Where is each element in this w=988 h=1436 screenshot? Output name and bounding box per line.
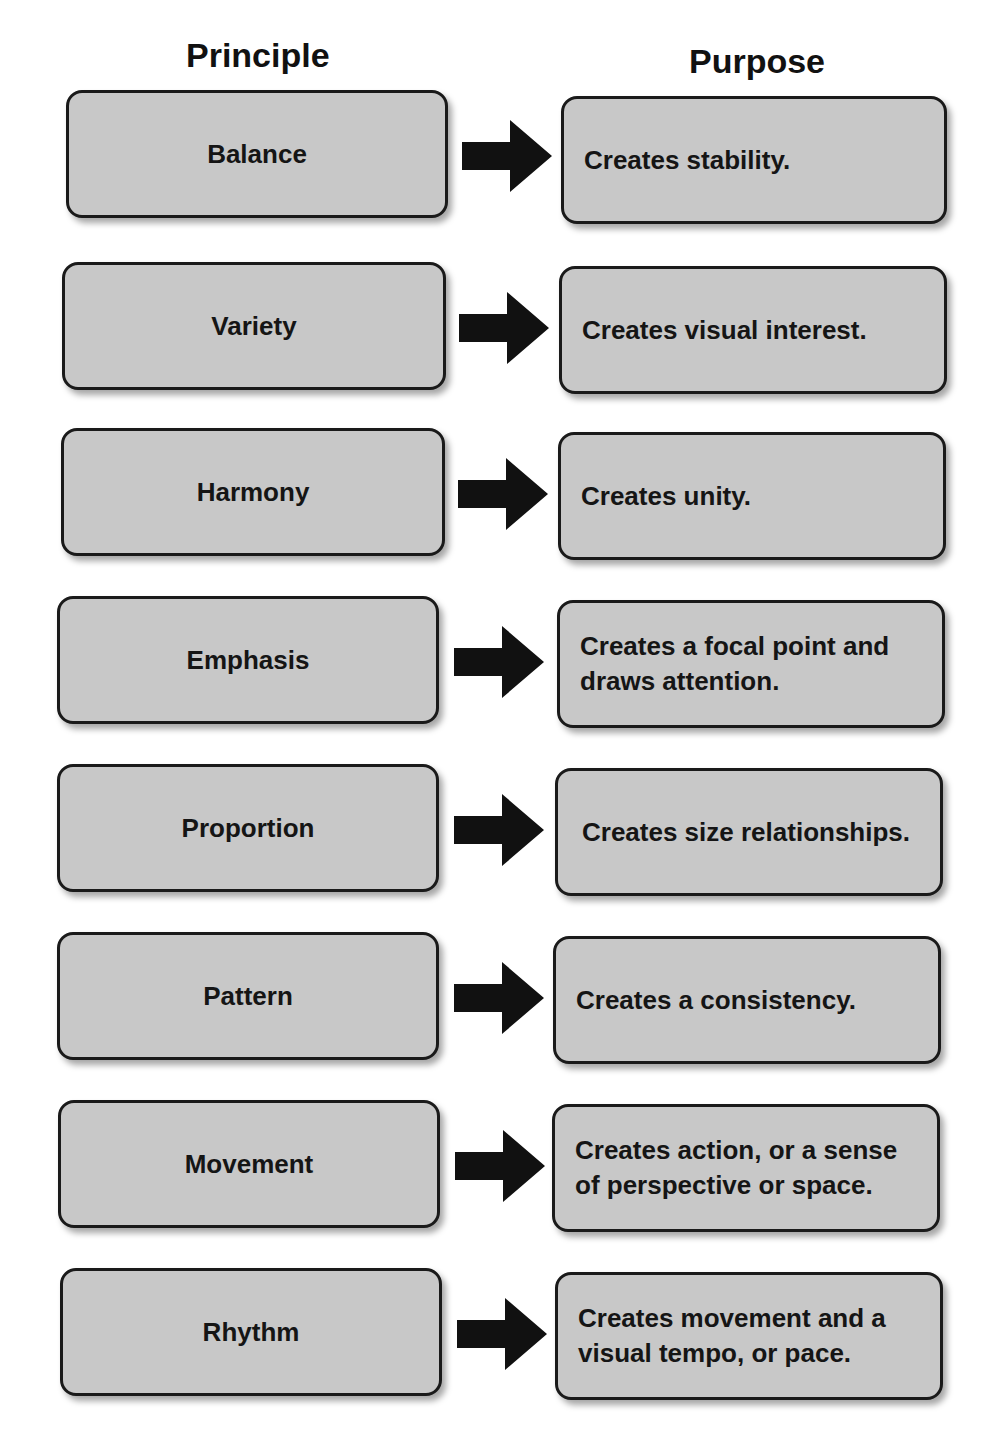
principle-label: Harmony bbox=[197, 475, 310, 510]
purpose-header: Purpose bbox=[689, 42, 825, 81]
right-arrow-icon bbox=[462, 120, 552, 192]
right-arrow-icon bbox=[455, 1130, 545, 1202]
principle-row: Movement Creates action, or a sense of p… bbox=[0, 1100, 988, 1230]
principle-row: Balance Creates stability. bbox=[0, 90, 988, 220]
purpose-text: Creates size relationships. bbox=[582, 815, 910, 850]
purpose-text: Creates unity. bbox=[581, 479, 751, 514]
principle-row: Variety Creates visual interest. bbox=[0, 262, 988, 392]
right-arrow-icon bbox=[458, 458, 548, 530]
principle-box: Balance bbox=[66, 90, 448, 218]
purpose-box: Creates a focal point and draws attentio… bbox=[557, 600, 945, 728]
purpose-box: Creates size relationships. bbox=[555, 768, 943, 896]
purpose-box: Creates visual interest. bbox=[559, 266, 947, 394]
principle-label: Movement bbox=[185, 1147, 314, 1182]
principle-row: Proportion Creates size relationships. bbox=[0, 764, 988, 894]
purpose-text: Creates a consistency. bbox=[576, 983, 856, 1018]
purpose-text: Creates stability. bbox=[584, 143, 790, 178]
right-arrow-icon bbox=[457, 1298, 547, 1370]
right-arrow-icon bbox=[459, 292, 549, 364]
principle-box: Harmony bbox=[61, 428, 445, 556]
purpose-text: Creates a focal point and draws attentio… bbox=[580, 629, 934, 699]
principle-box: Rhythm bbox=[60, 1268, 442, 1396]
principle-label: Variety bbox=[211, 309, 296, 344]
principle-box: Movement bbox=[58, 1100, 440, 1228]
purpose-text: Creates visual interest. bbox=[582, 313, 867, 348]
principle-box: Pattern bbox=[57, 932, 439, 1060]
principle-header: Principle bbox=[186, 36, 330, 75]
principle-row: Pattern Creates a consistency. bbox=[0, 932, 988, 1062]
principle-box: Proportion bbox=[57, 764, 439, 892]
principle-label: Proportion bbox=[182, 811, 315, 846]
right-arrow-icon bbox=[454, 626, 544, 698]
purpose-box: Creates unity. bbox=[558, 432, 946, 560]
right-arrow-icon bbox=[454, 962, 544, 1034]
purpose-text: Creates movement and a visual tempo, or … bbox=[578, 1301, 932, 1371]
purpose-box: Creates a consistency. bbox=[553, 936, 941, 1064]
principle-box: Emphasis bbox=[57, 596, 439, 724]
principle-box: Variety bbox=[62, 262, 446, 390]
principle-label: Pattern bbox=[203, 979, 293, 1014]
principle-label: Balance bbox=[207, 137, 307, 172]
principle-row: Rhythm Creates movement and a visual tem… bbox=[0, 1268, 988, 1398]
principle-row: Emphasis Creates a focal point and draws… bbox=[0, 596, 988, 726]
purpose-box: Creates movement and a visual tempo, or … bbox=[555, 1272, 943, 1400]
principle-row: Harmony Creates unity. bbox=[0, 428, 988, 558]
principle-label: Rhythm bbox=[203, 1315, 300, 1350]
right-arrow-icon bbox=[454, 794, 544, 866]
purpose-text: Creates action, or a sense of perspectiv… bbox=[575, 1133, 929, 1203]
principle-label: Emphasis bbox=[187, 643, 310, 678]
purpose-box: Creates stability. bbox=[561, 96, 947, 224]
purpose-box: Creates action, or a sense of perspectiv… bbox=[552, 1104, 940, 1232]
